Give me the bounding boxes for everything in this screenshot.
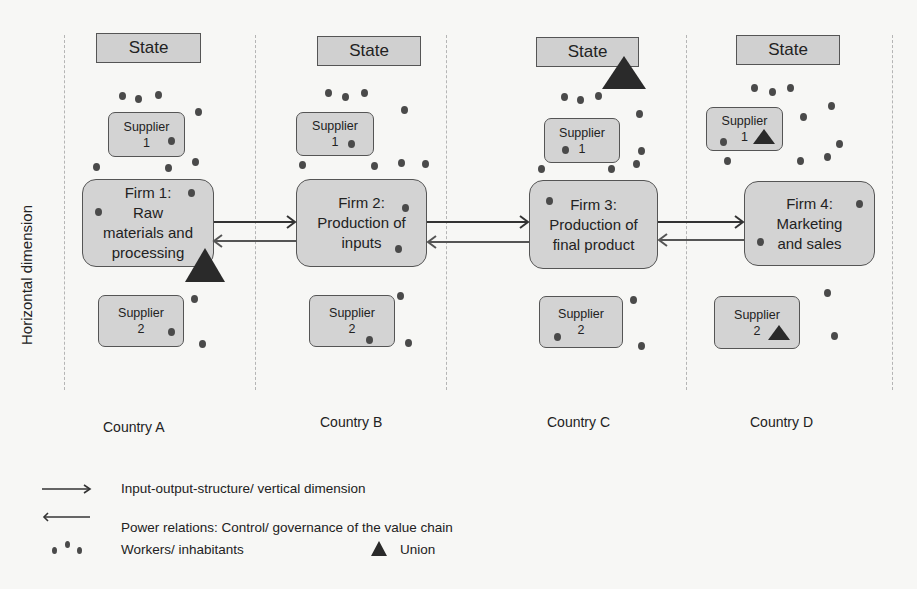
worker-dot [787,84,794,92]
worker-dot [155,91,162,99]
worker-dot [199,340,206,348]
worker-dot [638,147,645,155]
worker-dot [165,164,172,172]
worker-dot [191,295,198,303]
worker-dot [561,93,568,101]
worker-dot [562,146,569,154]
legend-input-output: Input-output-structure/ vertical dimensi… [121,481,366,496]
country-label-c: Country C [547,414,610,430]
worker-dot [119,92,126,100]
worker-dot [422,160,429,168]
worker-dot [577,96,584,104]
worker-dot [93,163,100,171]
union-icon-state-c [602,56,646,89]
worker-dot [402,204,409,212]
worker-dot [538,165,545,173]
worker-dot [135,95,142,103]
worker-dot [95,208,102,216]
worker-dot [168,328,175,336]
worker-dot [405,339,412,347]
worker-dot [398,159,405,167]
worker-dot [720,138,727,146]
worker-dot [836,140,843,148]
worker-dot [831,332,838,340]
worker-dot [546,197,553,205]
union-icon-supplier-2-d [768,325,790,340]
worker-dot [800,113,807,121]
worker-dot [724,157,731,165]
country-label-a: Country A [103,419,164,435]
worker-dot [633,160,640,168]
worker-dot [630,296,637,304]
worker-dot [757,238,764,246]
legend-workers: Workers/ inhabitants [121,542,244,557]
worker-dot [361,89,368,97]
worker-dot [395,245,402,253]
worker-dot [397,292,404,300]
worker-dot [348,140,355,148]
worker-dot [401,106,408,114]
worker-dot [638,342,645,350]
worker-dot [188,189,195,197]
legend-power-relations: Power relations: Control/ governance of … [121,520,453,535]
worker-dot [554,333,561,341]
worker-dot [828,102,835,110]
legend-workers-icon [65,541,70,548]
worker-dot [168,137,175,145]
worker-dot [371,162,378,170]
legend-workers-icon [52,547,57,554]
legend-workers-icon [77,547,82,554]
worker-dot [608,165,615,173]
worker-dot [595,92,602,100]
worker-dot [636,110,643,118]
country-label-b: Country B [320,414,382,430]
union-icon-supplier-1-d [753,129,775,144]
worker-dot [192,158,199,166]
worker-dot [366,336,373,344]
worker-dot [824,289,831,297]
worker-dot [195,108,202,116]
worker-dot [797,157,804,165]
worker-dot [299,161,306,169]
worker-dot [342,93,349,101]
legend-union: Union [400,542,435,557]
value-chain-arrows [0,0,917,589]
worker-dot [769,88,776,96]
worker-dot [856,200,863,208]
worker-dot [325,89,332,97]
worker-dot [751,84,758,92]
worker-dot [824,153,831,161]
country-label-d: Country D [750,414,813,430]
legend-union-icon [371,541,387,556]
union-icon-firm-1 [185,248,225,282]
